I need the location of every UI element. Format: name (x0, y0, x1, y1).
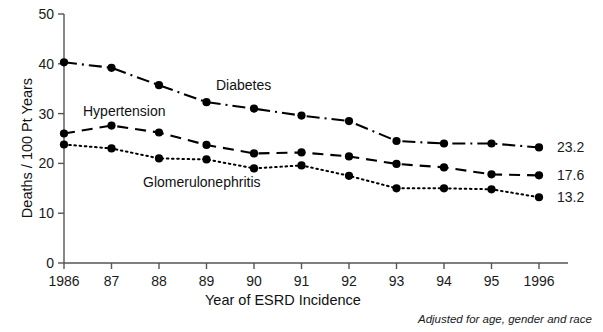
y-axis-tick-label: 20 (10, 155, 54, 171)
data-point-diabetes-95 (487, 139, 495, 147)
x-axis-tick-label: 87 (104, 273, 120, 289)
y-axis-tick-label: 0 (10, 255, 54, 271)
data-point-hypertension-95 (487, 170, 495, 178)
series-label-hypertension: Hypertension (83, 103, 166, 119)
data-point-glomerulonephritis-1986 (60, 140, 68, 148)
y-axis-tick-label: 30 (10, 106, 54, 122)
y-axis-tick-label: 50 (10, 6, 54, 22)
data-point-glomerulonephritis-89 (202, 155, 210, 163)
data-point-diabetes-87 (107, 64, 115, 72)
data-point-glomerulonephritis-1996 (535, 193, 543, 201)
data-point-diabetes-91 (297, 111, 305, 119)
data-point-hypertension-90 (250, 149, 258, 157)
x-axis-tick-label: 93 (389, 273, 405, 289)
x-axis-title: Year of ESRD Incidence (205, 292, 361, 308)
data-point-glomerulonephritis-94 (440, 184, 448, 192)
x-axis-tick-label: 89 (199, 273, 215, 289)
y-axis-tick-label: 40 (10, 56, 54, 72)
data-point-hypertension-93 (392, 160, 400, 168)
data-point-diabetes-93 (392, 137, 400, 145)
y-axis-tick-label: 10 (10, 205, 54, 221)
data-point-diabetes-88 (155, 81, 163, 89)
data-point-hypertension-87 (107, 121, 115, 129)
x-axis-tick-label: 94 (436, 273, 452, 289)
end-value-glomerulonephritis: 13.2 (557, 189, 584, 205)
data-point-glomerulonephritis-93 (392, 184, 400, 192)
x-axis-tick-label: 90 (246, 273, 262, 289)
x-axis-tick-label: 92 (341, 273, 357, 289)
data-point-hypertension-94 (440, 163, 448, 171)
data-point-glomerulonephritis-95 (487, 185, 495, 193)
data-point-diabetes-1986 (60, 58, 68, 66)
chart-container: Deaths / 100 Pt Years Year of ESRD Incid… (0, 0, 603, 332)
data-point-hypertension-1986 (60, 129, 68, 137)
data-point-glomerulonephritis-87 (107, 144, 115, 152)
x-axis-tick-label: 95 (484, 273, 500, 289)
data-point-diabetes-89 (202, 98, 210, 106)
data-point-diabetes-1996 (535, 143, 543, 151)
series-label-diabetes: Diabetes (216, 77, 271, 93)
x-axis-tick-label: 91 (294, 273, 310, 289)
x-axis-tick-label: 1996 (523, 273, 554, 289)
data-point-hypertension-1996 (535, 171, 543, 179)
series-label-glomerulonephritis: Glomerulonephritis (143, 174, 261, 190)
data-point-diabetes-94 (440, 139, 448, 147)
chart-footnote: Adjusted for age, gender and race (418, 313, 592, 325)
data-point-diabetes-90 (250, 105, 258, 113)
data-point-glomerulonephritis-88 (155, 154, 163, 162)
data-point-glomerulonephritis-92 (345, 172, 353, 180)
x-axis-tick-label: 1986 (48, 273, 79, 289)
data-point-glomerulonephritis-91 (297, 161, 305, 169)
x-axis-tick-label: 88 (151, 273, 167, 289)
data-point-hypertension-92 (345, 152, 353, 160)
data-point-hypertension-91 (297, 148, 305, 156)
data-point-hypertension-89 (202, 141, 210, 149)
data-point-diabetes-92 (345, 117, 353, 125)
data-point-glomerulonephritis-90 (250, 164, 258, 172)
data-point-hypertension-88 (155, 128, 163, 136)
end-value-diabetes: 23.2 (557, 139, 584, 155)
end-value-hypertension: 17.6 (557, 167, 584, 183)
